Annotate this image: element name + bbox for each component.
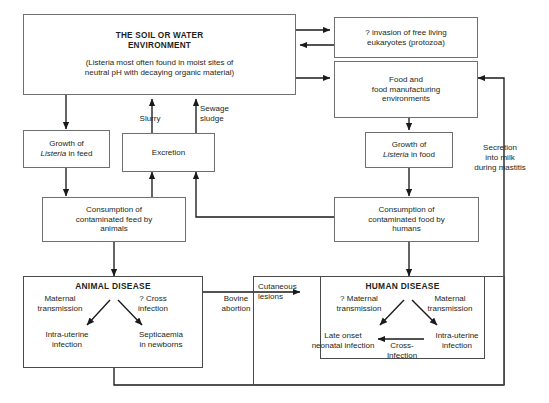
edge-label-bovine-abortion: Bovine abortion bbox=[210, 294, 262, 314]
protozoa-text: ? invasion of free living eukaryotes (pr… bbox=[365, 28, 446, 48]
edge-label-slurry: Slurry bbox=[128, 114, 172, 124]
growth-food-line2-rest: in food bbox=[409, 150, 435, 159]
human-maternal-transmission-label: Maternal transmission bbox=[414, 294, 486, 314]
node-consumption-contaminated-food: Consumption of contaminated food by huma… bbox=[334, 197, 479, 242]
consumption-food-text: Consumption of contaminated food by huma… bbox=[368, 205, 445, 234]
arrow-humans-to-excretion bbox=[196, 172, 334, 217]
node-growth-listeria-in-feed: Growth of Listeria in feed bbox=[23, 130, 110, 168]
animal-intra-uterine-infection-label: Intra-uterine infection bbox=[27, 330, 107, 350]
growth-food-line1: Growth of bbox=[392, 140, 427, 150]
node-excretion: Excretion bbox=[122, 133, 215, 172]
human-maternal-transmission-q-label: ? Maternal transmission bbox=[321, 294, 397, 314]
growth-feed-line1: Growth of bbox=[49, 139, 84, 149]
excretion-text: Excretion bbox=[152, 148, 185, 158]
edge-label-sewage-sludge: Sewage sludge bbox=[200, 104, 246, 124]
soil-environment-title: THE SOIL OR WATER ENVIRONMENT bbox=[116, 31, 204, 51]
node-consumption-contaminated-feed: Consumption of contaminated feed by anim… bbox=[42, 197, 186, 242]
growth-feed-line2: Listeria in feed bbox=[40, 149, 92, 159]
human-cross-infection-label: Cross- Infection bbox=[380, 341, 424, 361]
growth-food-italic-listeria: Listeria bbox=[383, 150, 409, 159]
growth-feed-line2-rest: in feed bbox=[66, 149, 92, 158]
animal-maternal-transmission-label: Maternal transmission bbox=[24, 294, 96, 314]
growth-feed-italic-listeria: Listeria bbox=[40, 149, 66, 158]
animal-septicaemia-label: Septicaemia in newborns bbox=[122, 330, 200, 350]
human-disease-header: HUMAN DISEASE bbox=[320, 281, 485, 291]
diagram-canvas: THE SOIL OR WATER ENVIRONMENT (Listeria … bbox=[0, 0, 549, 403]
human-late-onset-infection-label: Late onset neonatal infection bbox=[304, 331, 382, 351]
soil-environment-subtitle: (Listeria most often found in moist site… bbox=[85, 58, 234, 78]
node-protozoa-invasion: ? invasion of free living eukaryotes (pr… bbox=[334, 17, 478, 58]
node-food-manufacturing-environments: Food and food manufacturing environments bbox=[334, 61, 478, 118]
animal-cross-infection-label: ? Cross infection bbox=[122, 294, 184, 314]
food-environments-text: Food and food manufacturing environments bbox=[372, 75, 441, 104]
animal-disease-header: ANIMAL DISEASE bbox=[23, 281, 203, 291]
human-intra-uterine-infection-label: Intra-uterine infection bbox=[426, 331, 488, 351]
node-growth-listeria-in-food: Growth of Listeria in food bbox=[365, 132, 453, 168]
consumption-feed-text: Consumption of contaminated feed by anim… bbox=[76, 205, 153, 234]
node-soil-or-water-environment: THE SOIL OR WATER ENVIRONMENT (Listeria … bbox=[23, 14, 296, 95]
human-cutaneous-lesions-label: Cutaneous lesions bbox=[258, 282, 318, 302]
growth-food-line2: Listeria in food bbox=[383, 150, 435, 160]
edge-label-secretion-into-milk: Secretion into milk during mastitis bbox=[452, 143, 548, 172]
